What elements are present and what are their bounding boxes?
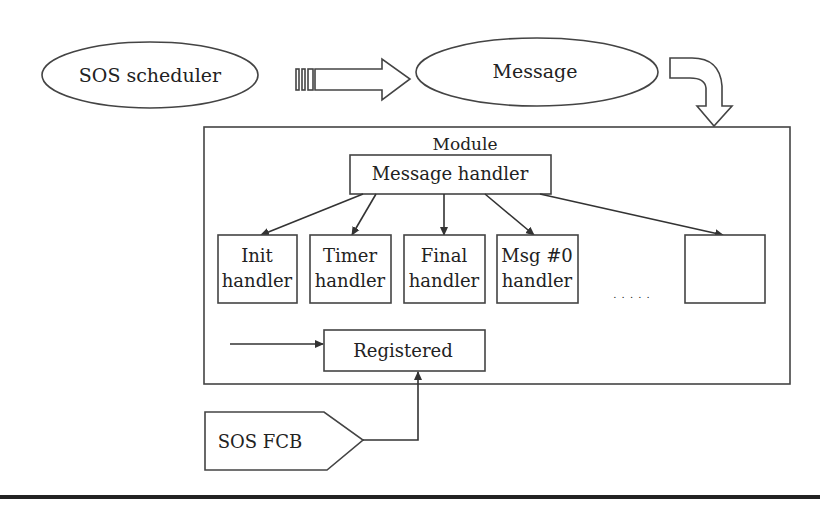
message-to-module-arrow bbox=[670, 58, 732, 126]
msg0-handler-label-line2: handler bbox=[502, 270, 573, 291]
msg0-handler-label-line1: Msg #0 bbox=[501, 245, 572, 266]
diagram-canvas: SOS scheduler Message Module Message han… bbox=[0, 0, 820, 508]
init-handler-label-line2: handler bbox=[222, 270, 293, 291]
unnamed-handler-node bbox=[685, 235, 765, 303]
ellipsis-more-handlers: . . . . . bbox=[613, 289, 651, 300]
registered-label: Registered bbox=[353, 340, 452, 361]
timer-handler-label-line1: Timer bbox=[323, 245, 377, 266]
final-handler-node: Final handler bbox=[404, 235, 485, 303]
timer-handler-label-line2: handler bbox=[315, 270, 386, 291]
message-handler-node: Message handler bbox=[350, 155, 551, 194]
message-handler-label: Message handler bbox=[372, 163, 529, 184]
msg0-handler-node: Msg #0 handler bbox=[497, 235, 578, 303]
sos-scheduler-label: SOS scheduler bbox=[79, 64, 222, 86]
registered-node: Registered bbox=[324, 330, 485, 371]
scheduler-to-message-arrow bbox=[296, 59, 410, 100]
module-label: Module bbox=[433, 134, 498, 154]
sos-fcb-node: SOS FCB bbox=[205, 412, 363, 470]
sos-fcb-label: SOS FCB bbox=[218, 431, 303, 452]
message-node: Message bbox=[416, 38, 658, 106]
bottom-rule bbox=[0, 495, 820, 499]
sos-scheduler-node: SOS scheduler bbox=[42, 42, 258, 108]
init-handler-label-line1: Init bbox=[241, 245, 273, 266]
message-label: Message bbox=[493, 60, 578, 82]
final-handler-label-line2: handler bbox=[409, 270, 480, 291]
timer-handler-node: Timer handler bbox=[310, 235, 391, 303]
init-handler-node: Init handler bbox=[218, 235, 297, 303]
final-handler-label-line1: Final bbox=[421, 245, 468, 266]
